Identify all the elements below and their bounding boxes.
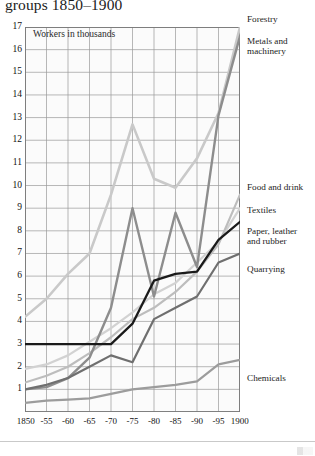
y-axis-annotation: Workers in thousands xyxy=(33,29,115,39)
series-label-paper-line2: and rubber xyxy=(247,236,287,247)
y-axis-tick-label: 9 xyxy=(0,202,22,212)
y-axis-tick-label: 17 xyxy=(0,21,22,31)
y-axis-tick-label: 4 xyxy=(0,315,22,325)
y-axis-tick-label: 6 xyxy=(0,270,22,280)
x-axis-tick-label: -85 xyxy=(170,416,182,426)
y-axis-tick-label: 11 xyxy=(0,157,22,167)
x-axis-tick-label: -70 xyxy=(105,416,117,426)
y-axis-tick-label: 5 xyxy=(0,293,22,303)
series-label-forestry: Forestry xyxy=(247,14,278,25)
y-axis-tick-label: 12 xyxy=(0,134,22,144)
plot-svg xyxy=(25,27,240,412)
y-axis-tick-label: 16 xyxy=(0,44,22,54)
series-label-textiles: Textiles xyxy=(247,205,276,216)
x-axis-tick-label: -95 xyxy=(213,416,225,426)
y-axis-tick-label: 10 xyxy=(0,180,22,190)
y-axis-tick-label: 8 xyxy=(0,225,22,235)
y-axis-tick-label: 1 xyxy=(0,383,22,393)
bottom-divider xyxy=(0,441,315,442)
series-label-metals-line2: machinery xyxy=(247,46,286,57)
x-axis-tick-label: -80 xyxy=(148,416,160,426)
corner-artifact xyxy=(297,447,313,455)
x-axis-tick-label: 1900 xyxy=(231,416,249,426)
series-label-quarrying: Quarrying xyxy=(247,264,285,275)
x-axis-tick-label: -90 xyxy=(191,416,203,426)
x-axis-tick-label: -65 xyxy=(84,416,96,426)
y-axis-tick-label: 3 xyxy=(0,338,22,348)
series-label-metals-line1: Metals and xyxy=(247,36,288,47)
x-axis-tick-label: -55 xyxy=(41,416,53,426)
y-axis-tick-label: 13 xyxy=(0,112,22,122)
x-axis-tick-label: -75 xyxy=(127,416,139,426)
chart-title: groups 1850–1900 xyxy=(5,0,122,14)
x-axis-tick-label: 1850 xyxy=(17,416,35,426)
series-label-food-and-drink: Food and drink xyxy=(247,182,303,193)
y-axis-tick-label: 2 xyxy=(0,361,22,371)
series-label-paper-line1: Paper, leather xyxy=(247,226,297,237)
series-label-chemicals: Chemicals xyxy=(247,373,286,384)
chart-figure: groups 1850–1900 Workers in thousands 17… xyxy=(0,0,315,456)
x-axis-tick-label: -60 xyxy=(62,416,74,426)
y-axis-tick-label: 7 xyxy=(0,247,22,257)
y-axis-tick-label: 14 xyxy=(0,89,22,99)
y-axis-tick-label: 15 xyxy=(0,66,22,76)
plot-area xyxy=(25,27,240,412)
